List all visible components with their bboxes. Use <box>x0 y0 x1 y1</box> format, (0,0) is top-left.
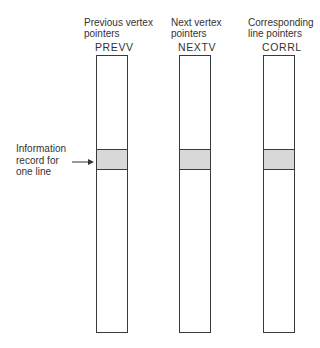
nextv-label: NEXTV <box>178 41 216 53</box>
prevv-label: PREVV <box>95 41 134 53</box>
nextv-header: Next vertex pointers <box>171 17 222 39</box>
corrl-record-band <box>264 149 294 170</box>
corrl-header-line1: Corresponding <box>248 17 314 28</box>
information-record-annotation: Information record for one line <box>16 143 66 178</box>
nextv-header-line2: pointers <box>171 28 222 39</box>
nextv-array <box>179 55 211 333</box>
annotation-line2: record for <box>16 155 66 167</box>
nextv-header-line1: Next vertex <box>171 17 222 28</box>
corrl-label: CORRL <box>262 41 302 53</box>
prevv-record-band <box>97 149 127 170</box>
prevv-header-line1: Previous vertex <box>84 17 153 28</box>
nextv-record-band <box>180 149 210 170</box>
arrow-right-icon <box>72 159 94 165</box>
corrl-header-line2: line pointers <box>248 28 314 39</box>
corrl-header: Corresponding line pointers <box>248 17 314 39</box>
annotation-line3: one line <box>16 166 66 178</box>
prevv-header: Previous vertex pointers <box>84 17 153 39</box>
prevv-header-line2: pointers <box>84 28 153 39</box>
corrl-array <box>263 55 295 333</box>
annotation-line1: Information <box>16 143 66 155</box>
prevv-array <box>96 55 128 333</box>
